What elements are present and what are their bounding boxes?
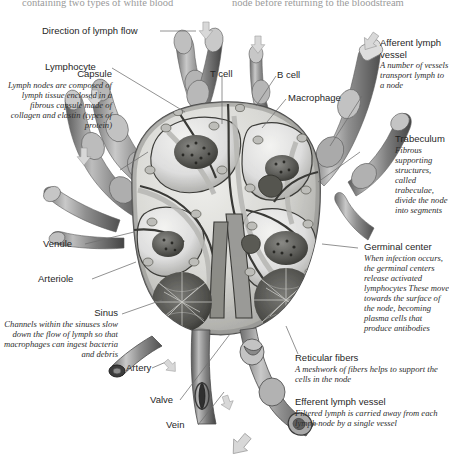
- efferent-description: Filtered lymph is carried away from each…: [295, 408, 449, 428]
- lymph-node-diagram: containing two types of white blood node…: [0, 0, 449, 465]
- capsule-description: Lymph nodes are composed of lymph tissue…: [0, 80, 112, 130]
- direction-of-lymph-flow-label: Direction of lymph flow: [42, 25, 138, 36]
- artery-label: Artery: [126, 362, 151, 373]
- germinal-center-callout: Germinal center When infection occurs, t…: [364, 241, 449, 333]
- germinal-title: Germinal center: [364, 241, 449, 253]
- vessel-group: [41, 27, 413, 249]
- t-cell-label: T cell: [210, 68, 233, 79]
- sinus-title: Sinus: [0, 307, 118, 319]
- vein-label: Vein: [166, 419, 185, 430]
- sinus-callout: Sinus Channels within the sinuses slow d…: [0, 307, 118, 359]
- flow-arrows: [77, 22, 382, 459]
- efferent-lymph-vessel-callout: Efferent lymph vessel Filtered lymph is …: [295, 396, 449, 428]
- trabeculum-description: Fibrous supporting structures, called tr…: [395, 145, 449, 215]
- venule-label: Venule: [43, 238, 72, 249]
- trabeculum-callout: Trabeculum Fibrous supporting structures…: [395, 133, 449, 215]
- b-cell-label: B cell: [277, 69, 300, 80]
- reticular-fibers-callout: Reticular fibers A meshwork of fibers he…: [295, 352, 449, 384]
- reticular-fibers: [152, 268, 318, 332]
- sinus-description: Channels within the sinuses slow down th…: [0, 319, 118, 359]
- afferent-description: A number of vessels transport lymph to a…: [380, 60, 449, 90]
- germinal-description: When infection occurs, the germinal cent…: [364, 253, 449, 333]
- afferent-title: Afferent lymph vessel: [380, 37, 449, 60]
- capsule-title: Capsule: [0, 68, 112, 80]
- afferent-lymph-vessel-callout: Afferent lymph vessel A number of vessel…: [380, 37, 449, 90]
- header-left-fragment: containing two types of white blood: [22, 0, 173, 8]
- header-right-fragment: node before returning to the bloodstream: [232, 0, 404, 8]
- valve-label: Valve: [150, 394, 173, 405]
- efferent-title: Efferent lymph vessel: [295, 396, 449, 408]
- reticular-description: A meshwork of fibers helps to support th…: [295, 364, 449, 384]
- macrophage-label: Macrophage: [288, 92, 341, 103]
- capsule-callout: Capsule Lymph nodes are composed of lymp…: [0, 68, 112, 130]
- lymph-node-body: [132, 102, 320, 335]
- arteriole-label: Arteriole: [38, 273, 73, 284]
- trabeculum-title: Trabeculum: [395, 133, 449, 145]
- reticular-title: Reticular fibers: [295, 352, 449, 364]
